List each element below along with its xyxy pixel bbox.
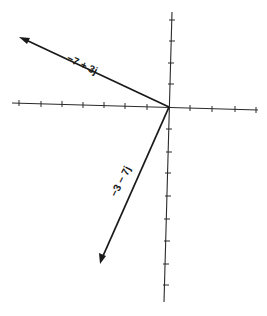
vector-minus3-minus7j: [99, 107, 169, 264]
imaginary-axis-ticks: [163, 20, 175, 285]
arrowhead-icon: [99, 253, 106, 264]
real-axis: [12, 100, 258, 113]
arrowhead-icon: [19, 37, 30, 44]
complex-plane-diagram: [0, 0, 267, 316]
imaginary-axis: [163, 12, 175, 302]
